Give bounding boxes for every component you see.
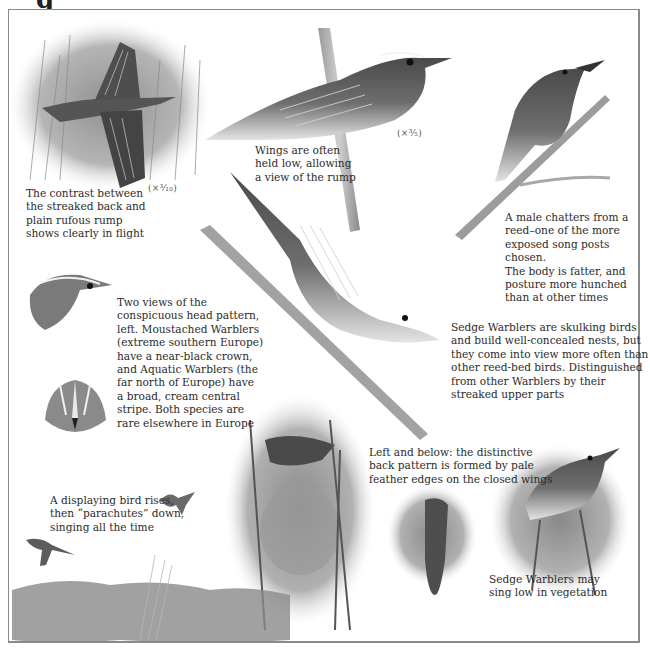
caption-skulking-birds: Sedge Warblers are skulking birds and bu… xyxy=(451,321,648,401)
scale-label-flight: (×³⁄₁₀) xyxy=(148,183,177,193)
head-side-view-illustration xyxy=(30,275,112,330)
caption-wings-held-low: Wings are often held low, allowing a vie… xyxy=(255,144,356,184)
flying-bird-small-illustration xyxy=(26,539,75,566)
head-front-view-illustration xyxy=(45,380,106,432)
scale-label-perched: (×³⁄₅) xyxy=(397,128,422,138)
caption-display-flight: A displaying bird rises, then “parachute… xyxy=(50,494,184,534)
warbler-back-view-illustration xyxy=(387,485,477,595)
caption-flight-contrast: The contrast between the streaked back a… xyxy=(26,187,146,241)
caption-sing-low: Sedge Warblers may sing low in vegetatio… xyxy=(489,573,607,600)
caption-back-pattern: Left and below: the distinctive back pat… xyxy=(369,446,553,486)
caption-head-pattern: Two views of the conspicuous head patter… xyxy=(117,296,263,430)
flying-warbler-in-reeds-illustration xyxy=(10,20,210,190)
caption-male-chatters: A male chatters from a reed–one of the m… xyxy=(505,211,650,305)
